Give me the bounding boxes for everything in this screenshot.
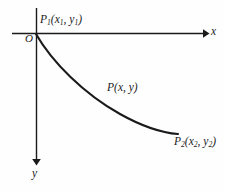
- x-axis-arrowhead-icon: [203, 29, 210, 38]
- origin-label: O: [25, 33, 33, 44]
- y-axis-arrowhead-icon: [32, 159, 41, 166]
- point-label-p2: P2(x2, y2): [174, 136, 216, 148]
- x-axis-label: x: [211, 26, 216, 38]
- point-label-p1: P1(x1, y1): [40, 14, 82, 26]
- point-label-p: P(x, y): [107, 82, 138, 94]
- diagram-canvas: [0, 0, 225, 192]
- y-axis-label: y: [32, 168, 37, 180]
- coordinate-diagram: P1(x1, y1) O P(x, y) P2(x2, y2) x y: [0, 0, 225, 192]
